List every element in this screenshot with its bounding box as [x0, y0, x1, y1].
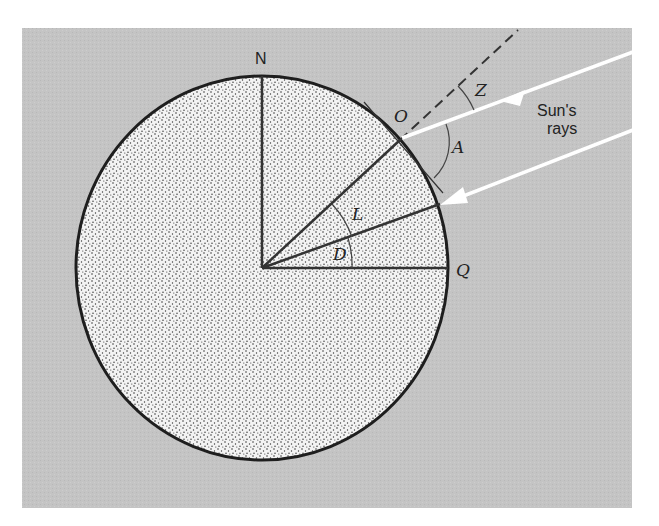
label-altitude-angle-a: A [450, 137, 464, 157]
label-observer-o: O [394, 106, 408, 126]
label-latitude-angle-l: L [351, 204, 363, 224]
earth-sun-geometry-diagram: N Q O Z A L D Sun's rays [0, 0, 659, 526]
label-sun-rays-line1: Sun's [537, 102, 577, 119]
label-equator-point-q: Q [456, 260, 470, 280]
label-north: N [255, 50, 267, 67]
label-zenith-angle-z: Z [474, 80, 488, 100]
label-declination-angle-d: D [332, 244, 347, 264]
label-sun-rays-line2: rays [547, 120, 577, 137]
